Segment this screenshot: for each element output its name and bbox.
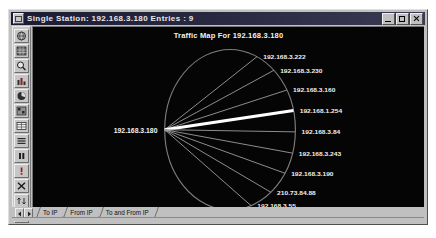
window-controls	[382, 13, 425, 25]
node-label[interactable]: 192.168.1.254	[300, 107, 343, 114]
matrix-icon[interactable]	[14, 104, 29, 118]
bar-chart-icon[interactable]	[14, 74, 29, 88]
single-station-window: Single Station: 192.168.3.180 Entries : …	[8, 9, 428, 225]
minimize-icon[interactable]	[382, 13, 395, 25]
left-toolbar	[12, 26, 31, 207]
tab-baseline	[12, 217, 424, 218]
globe-icon[interactable]	[14, 29, 29, 43]
node-label[interactable]: 210.73.84.88	[277, 189, 316, 196]
magnifier-icon[interactable]	[14, 59, 29, 73]
title-bar[interactable]: Single Station: 192.168.3.180 Entries : …	[11, 12, 425, 25]
traffic-spoke[interactable]	[165, 130, 251, 206]
pie-chart-icon[interactable]	[14, 89, 29, 103]
traffic-spoke[interactable]	[165, 110, 294, 129]
stop-icon[interactable]	[14, 179, 29, 193]
traffic-spoke[interactable]	[165, 130, 285, 174]
table-icon[interactable]	[14, 119, 29, 133]
traffic-map-graph: 192.168.3.222192.168.3.230192.168.3.1601…	[33, 27, 424, 207]
traffic-map-panel: Traffic Map For 192.168.3.180 192.168.3.…	[32, 26, 424, 207]
maximize-icon[interactable]	[396, 13, 409, 25]
pause-icon[interactable]	[14, 149, 29, 163]
alert-icon[interactable]	[14, 164, 29, 178]
close-icon[interactable]	[410, 13, 423, 25]
node-label[interactable]: 192.168.3.160	[293, 87, 336, 94]
node-label[interactable]: 192.168.3.243	[299, 150, 342, 157]
tab-bar: To IPFrom IPTo and From IP	[12, 207, 424, 221]
window-client-area: Traffic Map For 192.168.3.180 192.168.3.…	[12, 26, 424, 221]
center-node-label: 192.168.3.180	[114, 127, 158, 134]
traffic-spoke[interactable]	[165, 130, 296, 132]
node-label[interactable]: 192.168.3.222	[263, 53, 306, 60]
spoke-group	[165, 57, 296, 206]
node-label[interactable]: 192.168.3.84	[302, 128, 341, 135]
sort-icon[interactable]	[14, 194, 29, 208]
system-menu-icon[interactable]	[13, 13, 24, 24]
node-label[interactable]: 192.168.3.230	[280, 67, 323, 74]
list-icon[interactable]	[14, 134, 29, 148]
window-title: Single Station: 192.168.3.180 Entries : …	[27, 14, 194, 23]
grid-icon[interactable]	[14, 44, 29, 58]
node-label[interactable]: 192.168.3.190	[291, 170, 334, 177]
node-label-group: 192.168.3.222192.168.3.230192.168.3.1601…	[257, 53, 342, 207]
